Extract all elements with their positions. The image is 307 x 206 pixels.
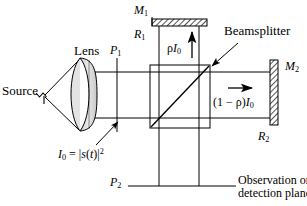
plane-p2-label: P2	[110, 176, 121, 191]
plane-p1-label: P1	[110, 44, 121, 59]
mirror-m1-label: M1	[134, 4, 148, 19]
detection-plane-line-1: Observation or	[238, 174, 307, 187]
transmitted-beam-label: (1 − ρ)I0	[213, 96, 254, 111]
reflectance-r1-label: R1	[134, 28, 145, 43]
mirror-m2	[270, 60, 278, 125]
mirror-m2-label: M2	[285, 60, 299, 75]
source-label: Source	[2, 84, 38, 98]
detection-plane-line-2: detection plane	[238, 187, 307, 200]
beamsplitter-leader	[212, 43, 238, 66]
detection-plane-label: Observation or detection plane	[238, 174, 307, 199]
interferometer-figure: M1 R1 M2 R2 P1 P2 Source Lens Beamsplitt…	[0, 0, 307, 206]
beamsplitter-label: Beamsplitter	[224, 24, 290, 38]
reflectance-r2-label: R2	[258, 130, 269, 145]
reflected-beam-label: ρI0	[167, 42, 181, 57]
intensity-leader	[96, 122, 118, 145]
lens-label: Lens	[74, 44, 99, 58]
mirror-m1	[152, 17, 207, 26]
lens-element	[71, 58, 97, 131]
intensity-expression-label: I0=|s(t)|2	[58, 148, 104, 163]
